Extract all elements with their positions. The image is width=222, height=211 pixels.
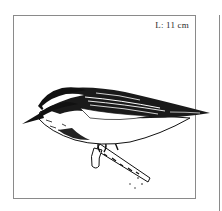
- adjacent-panel-edge: [219, 15, 222, 211]
- length-label: L: 11 cm: [155, 20, 189, 30]
- illustration-panel: L: 11 cm: [13, 15, 196, 199]
